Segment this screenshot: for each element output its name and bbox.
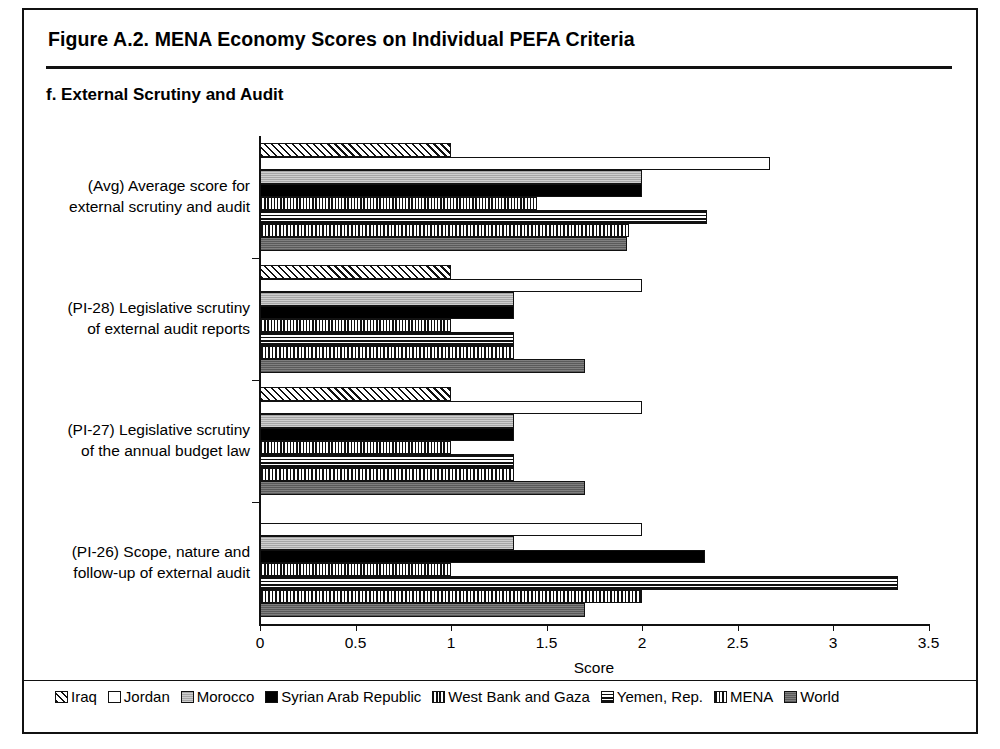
- x-tick: [738, 624, 739, 631]
- bar-row: [260, 265, 928, 278]
- bar-row: [260, 468, 928, 481]
- x-tick-label: 0: [240, 634, 280, 652]
- legend-swatch-icon: [432, 691, 445, 703]
- category-label-line: external scrutiny and audit: [20, 196, 250, 217]
- bar-west-bank-and-gaza: [260, 197, 537, 210]
- bar-mena: [260, 346, 514, 359]
- legend-item: West Bank and Gaza: [432, 688, 589, 705]
- bar-row: [260, 306, 928, 319]
- bar-mena: [260, 224, 629, 237]
- category-label-line: (Avg) Average score for: [20, 175, 250, 196]
- y-tick: [252, 258, 260, 259]
- bar-row: [260, 157, 928, 170]
- bar-row: [260, 414, 928, 427]
- bar-world: [260, 237, 627, 250]
- legend-label: West Bank and Gaza: [448, 688, 589, 705]
- x-axis-line: [259, 624, 929, 626]
- x-tick: [642, 624, 643, 631]
- x-tick-label: 3.5: [909, 634, 949, 652]
- category-label-line: (PI-27) Legislative scrutiny: [20, 419, 250, 440]
- bar-row: [260, 184, 928, 197]
- bar-row: [260, 576, 928, 589]
- title-divider: [46, 66, 952, 69]
- bar-row: [260, 523, 928, 536]
- x-tick: [833, 624, 834, 631]
- bar-yemen-rep-: [260, 332, 514, 345]
- y-axis-category-label: (PI-26) Scope, nature andfollow-up of ex…: [20, 541, 250, 583]
- bar-row: [260, 319, 928, 332]
- legend-swatch-icon: [181, 691, 194, 703]
- bar-syrian-arab-republic: [260, 428, 514, 441]
- bar-row: [260, 401, 928, 414]
- bar-row: [260, 603, 928, 616]
- bar-row: [260, 441, 928, 454]
- x-tick-label: 2.5: [718, 634, 758, 652]
- bar-yemen-rep-: [260, 576, 898, 589]
- bar-row: [260, 454, 928, 467]
- bar-row: [260, 590, 928, 603]
- bar-jordan: [260, 401, 642, 414]
- legend-swatch-icon: [108, 691, 121, 703]
- bar-jordan: [260, 157, 770, 170]
- x-tick: [929, 624, 930, 631]
- bar-syrian-arab-republic: [260, 550, 705, 563]
- bar-morocco: [260, 414, 514, 427]
- legend-swatch-icon: [714, 691, 727, 703]
- bar-syrian-arab-republic: [260, 306, 514, 319]
- bar-row: [260, 332, 928, 345]
- bar-mena: [260, 468, 514, 481]
- bar-world: [260, 481, 585, 494]
- bar-row: [260, 563, 928, 576]
- category-label-line: of the annual budget law: [20, 440, 250, 461]
- plot-area: [260, 136, 928, 623]
- bar-iraq: [260, 265, 451, 278]
- category-label-line: (PI-28) Legislative scrutiny: [20, 297, 250, 318]
- x-tick: [260, 624, 261, 631]
- bar-row: [260, 292, 928, 305]
- bar-morocco: [260, 292, 514, 305]
- bar-iraq: [260, 387, 451, 400]
- bar-yemen-rep-: [260, 454, 514, 467]
- x-tick-label: 1.5: [527, 634, 567, 652]
- bar-west-bank-and-gaza: [260, 319, 451, 332]
- legend-swatch-icon: [784, 691, 797, 703]
- bar-morocco: [260, 170, 642, 183]
- legend-label: Iraq: [71, 688, 97, 705]
- x-tick-label: 2: [622, 634, 662, 652]
- bar-row: [260, 428, 928, 441]
- bar-row: [260, 197, 928, 210]
- legend-item: Jordan: [108, 688, 170, 705]
- x-tick-label: 3: [813, 634, 853, 652]
- legend-item: Iraq: [55, 688, 97, 705]
- bar-west-bank-and-gaza: [260, 563, 451, 576]
- legend-label: Yemen, Rep.: [617, 688, 703, 705]
- bar-iraq: [260, 143, 451, 156]
- bar-row: [260, 536, 928, 549]
- bar-row: [260, 346, 928, 359]
- bar-morocco: [260, 536, 514, 549]
- panel-title: f. External Scrutiny and Audit: [46, 85, 283, 105]
- legend-item: Morocco: [181, 688, 255, 705]
- y-axis-category-label: (PI-28) Legislative scrutinyof external …: [20, 297, 250, 339]
- y-tick: [252, 502, 260, 503]
- y-axis-category-label: (PI-27) Legislative scrutinyof the annua…: [20, 419, 250, 461]
- bar-syrian-arab-republic: [260, 184, 642, 197]
- bar-mena: [260, 590, 642, 603]
- x-tick: [547, 624, 548, 631]
- bar-row: [260, 224, 928, 237]
- bar-row: [260, 550, 928, 563]
- bar-row: [260, 509, 928, 522]
- legend-item: World: [784, 688, 839, 705]
- category-label-line: (PI-26) Scope, nature and: [20, 541, 250, 562]
- bar-group: [260, 136, 928, 258]
- legend-swatch-icon: [265, 691, 278, 703]
- bar-row: [260, 143, 928, 156]
- legend-label: Jordan: [124, 688, 170, 705]
- legend-item: Yemen, Rep.: [601, 688, 703, 705]
- bar-group: [260, 380, 928, 502]
- x-tick: [451, 624, 452, 631]
- bar-jordan: [260, 523, 642, 536]
- bar-row: [260, 210, 928, 223]
- category-label-line: of external audit reports: [20, 318, 250, 339]
- legend-item: Syrian Arab Republic: [265, 688, 421, 705]
